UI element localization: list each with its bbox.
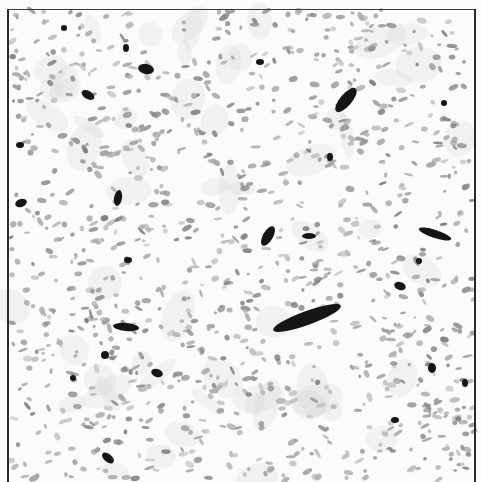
nucleus (313, 448, 321, 459)
frame-border-top (7, 9, 475, 10)
nucleus (330, 320, 339, 323)
nucleus (130, 475, 140, 482)
nucleus (308, 94, 317, 101)
nucleus (290, 360, 297, 368)
nucleus (390, 96, 397, 102)
nucleus (234, 225, 239, 229)
nucleus (460, 159, 467, 164)
nucleus (301, 288, 304, 292)
nucleus (26, 6, 36, 16)
nucleus (407, 464, 417, 474)
nucleus (242, 206, 248, 211)
nucleus (134, 17, 167, 51)
nucleus (258, 73, 263, 80)
nucleus (124, 21, 134, 30)
nucleus (178, 221, 185, 225)
nucleus (59, 199, 69, 205)
nucleus (17, 99, 24, 104)
nucleus (398, 422, 404, 428)
nucleus (244, 324, 252, 330)
nucleus (205, 202, 216, 209)
nucleus (226, 422, 238, 432)
nucleus (155, 75, 162, 81)
blood-vessel (302, 233, 316, 239)
nucleus (305, 17, 308, 21)
nucleus (35, 211, 40, 216)
nucleus (11, 341, 16, 347)
nucleus (396, 87, 407, 94)
nucleus (210, 257, 219, 265)
nucleus (417, 287, 427, 293)
nucleus (376, 137, 386, 146)
nucleus (74, 271, 82, 276)
nucleus (462, 59, 467, 64)
nucleus (234, 268, 240, 276)
nucleus (369, 315, 377, 323)
nucleus (111, 415, 116, 420)
nucleus (142, 298, 151, 303)
nucleus (335, 68, 344, 74)
nucleus (80, 466, 88, 472)
nucleus (286, 269, 291, 273)
nucleus (448, 457, 453, 462)
nucleus (245, 346, 249, 349)
nucleus (224, 29, 232, 36)
nucleus (299, 256, 304, 261)
nucleus (45, 450, 52, 456)
nucleus (86, 258, 95, 263)
nucleus (9, 54, 16, 60)
nucleus (53, 451, 61, 456)
nucleus (182, 280, 189, 285)
nucleus (225, 21, 231, 27)
nucleus (276, 236, 283, 239)
nucleus (9, 220, 18, 228)
nucleus (152, 468, 159, 472)
nucleus (183, 413, 190, 418)
nucleus (462, 406, 467, 410)
nucleus (441, 446, 450, 451)
nucleus (101, 425, 107, 429)
nucleus (394, 210, 403, 217)
nucleus (258, 265, 264, 270)
nucleus (134, 300, 140, 307)
nucleus (357, 352, 364, 357)
nucleus (24, 207, 32, 214)
nucleus (128, 66, 138, 70)
nucleus (385, 152, 391, 157)
nucleus (204, 476, 213, 481)
nucleus (9, 272, 15, 278)
nucleus (144, 416, 154, 424)
nucleus (440, 29, 448, 37)
nucleus (136, 88, 142, 94)
nucleus (44, 382, 51, 388)
nucleus (26, 365, 33, 371)
nucleus (61, 46, 68, 53)
nucleus (324, 28, 330, 32)
nucleus (64, 472, 69, 477)
nucleus (134, 305, 143, 312)
nucleus (118, 214, 127, 223)
nucleus (102, 13, 109, 20)
nucleus (107, 335, 114, 342)
nucleus (326, 440, 332, 445)
nucleus (69, 313, 75, 316)
nucleus (326, 296, 333, 301)
nucleus (156, 257, 161, 263)
nucleus (24, 77, 28, 82)
nucleus (125, 416, 133, 422)
nucleus (457, 328, 462, 333)
nucleus (387, 104, 393, 108)
nucleus (122, 89, 132, 96)
nucleus (355, 217, 358, 220)
nucleus (440, 158, 449, 164)
nucleus (121, 271, 126, 274)
nucleus (398, 145, 405, 151)
nucleus (300, 446, 305, 451)
nucleus (434, 476, 444, 482)
nucleus (259, 338, 266, 345)
nucleus (75, 11, 83, 19)
nucleus (449, 31, 455, 36)
nucleus (100, 214, 109, 221)
nucleus (317, 98, 325, 106)
nucleus (271, 21, 279, 29)
